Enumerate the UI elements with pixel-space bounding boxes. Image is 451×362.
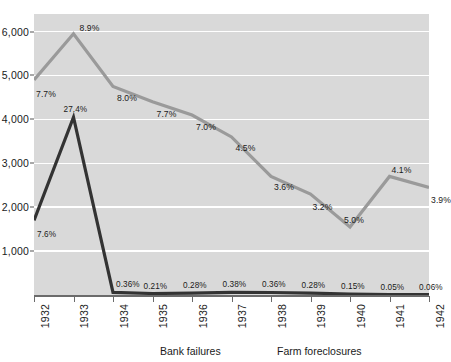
x-tick-label-1937: 1937 xyxy=(236,304,248,328)
x-tick-mark xyxy=(350,296,351,302)
chart-lines xyxy=(34,14,429,295)
data-label-farm-foreclosures-1940: 5.0% xyxy=(344,215,364,225)
data-label-farm-foreclosures-1932: 7.7% xyxy=(36,89,56,99)
data-label-bank-failures-1935: 0.21% xyxy=(144,282,168,291)
x-tick-label-1932: 1932 xyxy=(39,304,51,328)
x-tick-label-1938: 1938 xyxy=(276,304,288,328)
data-label-farm-foreclosures-1933: 8.9% xyxy=(80,23,100,33)
x-tick-mark xyxy=(232,296,233,302)
x-tick-mark xyxy=(34,296,35,302)
data-label-bank-failures-1936: 0.28% xyxy=(183,281,207,290)
x-tick-label-1936: 1936 xyxy=(197,304,209,328)
x-tick-label-1940: 1940 xyxy=(355,304,367,328)
x-tick-label-1935: 1935 xyxy=(157,304,169,328)
y-tick-label: 3,000 xyxy=(2,157,29,169)
data-label-bank-failures-1937: 0.38% xyxy=(223,280,247,289)
data-label-farm-foreclosures-1935: 7.7% xyxy=(157,109,177,119)
y-tick-label: 4,000 xyxy=(2,113,29,125)
data-label-bank-failures-1933: 27.4% xyxy=(64,105,88,114)
y-axis: 1,0002,0003,0004,0005,0006,000 xyxy=(0,0,34,300)
y-tick-label: 2,000 xyxy=(2,201,29,213)
x-tick-mark xyxy=(271,296,272,302)
data-label-bank-failures-1938: 0.36% xyxy=(262,280,286,289)
data-label-bank-failures-1940: 0.15% xyxy=(341,282,365,291)
y-tick-label: 6,000 xyxy=(2,26,29,38)
x-tick-mark xyxy=(74,296,75,302)
series-line-bank-failures xyxy=(34,117,429,294)
legend-item-farm-foreclosures: Farm foreclosures xyxy=(277,345,362,357)
x-tick-label-1939: 1939 xyxy=(315,304,327,328)
legend-item-bank-failures: Bank failures xyxy=(160,345,221,357)
x-tick-label-1942: 1942 xyxy=(434,304,446,328)
data-label-bank-failures-1932: 7.6% xyxy=(37,230,56,239)
data-label-farm-foreclosures-1939: 3.2% xyxy=(313,202,333,212)
x-tick-label-1941: 1941 xyxy=(394,304,406,328)
data-label-farm-foreclosures-1936: 7.0% xyxy=(196,122,216,132)
data-label-farm-foreclosures-1938: 3.6% xyxy=(274,182,294,192)
y-tick-label: 1,000 xyxy=(2,245,29,257)
x-tick-mark xyxy=(113,296,114,302)
x-tick-mark xyxy=(192,296,193,302)
y-tick-label: 5,000 xyxy=(2,69,29,81)
x-tick-mark xyxy=(429,296,430,302)
x-tick-label-1934: 1934 xyxy=(118,304,130,328)
data-label-bank-failures-1942: 0.06% xyxy=(419,283,443,292)
x-tick-mark xyxy=(390,296,391,302)
data-label-bank-failures-1939: 0.28% xyxy=(302,281,326,290)
data-label-bank-failures-1941: 0.05% xyxy=(381,283,405,292)
data-label-farm-foreclosures-1942: 3.9% xyxy=(431,195,451,205)
data-label-bank-failures-1934: 0.36% xyxy=(116,280,140,289)
data-label-farm-foreclosures-1937: 4.5% xyxy=(236,143,256,153)
x-tick-label-1933: 1933 xyxy=(78,304,90,328)
data-label-farm-foreclosures-1934: 8.0% xyxy=(117,93,137,103)
data-label-farm-foreclosures-1941: 4.1% xyxy=(392,165,412,175)
x-tick-mark xyxy=(311,296,312,302)
chart-legend: Bank failures Farm foreclosures xyxy=(0,345,433,362)
x-tick-mark xyxy=(153,296,154,302)
